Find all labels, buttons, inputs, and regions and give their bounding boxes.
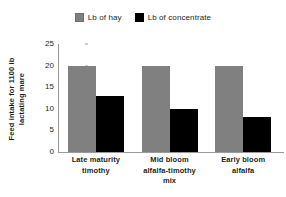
bar-group-early-bloom-alfalfa: [206, 44, 280, 152]
x-label-mid-bloom-alfalfa-timothy-mix: Mid bloom alfalfa-timothy mix: [133, 155, 207, 197]
bar-hay-0[interactable]: [68, 66, 96, 152]
x-label-late-maturity-timothy: Late maturity timothy: [59, 155, 133, 197]
y-tick-label-5: 5: [30, 125, 54, 135]
bar-hay-1[interactable]: [142, 66, 170, 152]
black-square-icon: [135, 13, 144, 22]
x-label-line: Early bloom: [206, 155, 280, 166]
gray-square-icon: [75, 13, 84, 22]
legend-item-hay: Lb of hay: [75, 13, 122, 22]
y-axis-ticks: 25 20 15 10 5 0: [30, 38, 54, 158]
y-tick-label-0: 0: [30, 147, 54, 157]
x-label-line: timothy: [59, 166, 133, 177]
bar-group-mid-bloom-alfalfa-timothy-mix: [133, 44, 207, 152]
bar-concentrate-1[interactable]: [170, 109, 198, 152]
x-label-line: Late maturity: [59, 155, 133, 166]
legend-item-concentrate: Lb of concentrate: [135, 13, 212, 22]
chart-legend: Lb of hay Lb of concentrate: [0, 7, 286, 27]
bar-groups: [59, 44, 280, 152]
bar-concentrate-2[interactable]: [243, 117, 271, 152]
y-axis-title-line-2: lactating mare: [17, 58, 27, 141]
y-tick-label-10: 10: [30, 104, 54, 114]
x-label-line: alfalfa-timothy: [133, 166, 207, 177]
y-axis-title: Feed intake for 1100 lb lactating mare: [6, 38, 28, 160]
y-tick-label-20: 20: [30, 61, 54, 71]
y-tick-label-15: 15: [30, 82, 54, 92]
x-label-line: alfalfa: [206, 166, 280, 177]
legend-label-hay: Lb of hay: [88, 13, 122, 22]
x-label-early-bloom-alfalfa: Early bloom alfalfa: [206, 155, 280, 197]
bar-concentrate-0[interactable]: [96, 96, 124, 152]
y-tick-label-25: 25: [30, 39, 54, 49]
bar-hay-2[interactable]: [215, 66, 243, 152]
bar-chart-figure: Lb of hay Lb of concentrate Feed intake …: [0, 0, 286, 197]
x-label-line: Mid bloom: [133, 155, 207, 166]
x-axis-labels: Late maturity timothy Mid bloom alfalfa-…: [59, 155, 280, 197]
x-label-line: mix: [133, 176, 207, 187]
legend-label-concentrate: Lb of concentrate: [148, 13, 212, 22]
bar-group-late-maturity-timothy: [59, 44, 133, 152]
y-axis-title-line-1: Feed intake for 1100 lb: [7, 58, 17, 141]
x-axis-line: [58, 152, 284, 153]
